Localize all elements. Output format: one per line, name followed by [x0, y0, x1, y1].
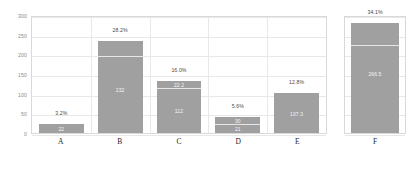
bar-segment-divider: [157, 88, 202, 89]
gridline-horizontal: [32, 135, 326, 136]
bar-percent-label: 12.8%: [289, 79, 304, 86]
y-axis-tick-label: 50: [21, 111, 27, 117]
x-axis-tick-label-d: D: [235, 137, 240, 146]
bar-c[interactable]: 22.2112: [157, 81, 202, 133]
bar-value-label: 232: [116, 87, 125, 93]
bar-slot-a: 3.2%22: [32, 17, 91, 133]
chart-panel-main: 3.2%2228.2%23216.0%22.21125.6%302112.8%1…: [31, 16, 327, 134]
bar-segment-divider: [98, 56, 143, 57]
bar-b[interactable]: 232: [98, 41, 143, 133]
bar-e[interactable]: 107.3: [274, 93, 319, 133]
bar-value-label: 22.2: [174, 82, 184, 88]
bar-slot-c: 16.0%22.2112: [150, 17, 209, 133]
x-axis-tick-label-b: B: [117, 137, 122, 146]
x-axis-tick-label-e: E: [295, 137, 300, 146]
bar-value-label: 21: [235, 126, 241, 132]
y-axis-tick-label: 150: [18, 72, 27, 78]
y-axis-tick-label: 250: [18, 33, 27, 39]
x-axis-tick-label-f: F: [373, 137, 377, 146]
bar-slot-f: 34.1%266.5: [345, 17, 405, 133]
bar-value-label: 107.3: [290, 111, 303, 117]
bar-percent-label: 16.0%: [171, 67, 186, 74]
bar-percent-label: 34.1%: [367, 9, 382, 16]
bar-a[interactable]: 22: [39, 124, 84, 133]
x-axis-tick-label-a: A: [58, 137, 63, 146]
bar-value-label: 30: [235, 118, 241, 124]
y-axis-tick-label: 100: [18, 92, 27, 98]
bar-d[interactable]: 3021: [215, 117, 260, 133]
bar-value-label: 22: [58, 126, 64, 132]
bar-slot-d: 5.6%3021: [208, 17, 267, 133]
bar-value-label: 266.5: [368, 71, 381, 77]
bar-f[interactable]: 266.5: [351, 23, 399, 133]
y-axis-tick-label: 0: [24, 131, 27, 137]
bar-value-label: 112: [175, 108, 183, 114]
bar-chart: 050100150200250300 3.2%2228.2%23216.0%22…: [0, 0, 415, 171]
bar-segment-divider: [351, 45, 399, 46]
y-axis-tick-label: 200: [18, 52, 27, 58]
bar-slot-e: 12.8%107.3: [267, 17, 326, 133]
gridline-horizontal: [345, 135, 405, 136]
bar-percent-label: 5.6%: [232, 103, 244, 110]
bar-percent-label: 3.2%: [55, 110, 67, 117]
y-axis: 050100150200250300: [0, 16, 30, 134]
bar-slot-b: 28.2%232: [91, 17, 150, 133]
bar-percent-label: 28.2%: [113, 27, 128, 34]
y-axis-tick-label: 300: [18, 13, 27, 19]
x-axis-tick-label-c: C: [176, 137, 181, 146]
chart-panel-extra: 34.1%266.5: [344, 16, 406, 134]
